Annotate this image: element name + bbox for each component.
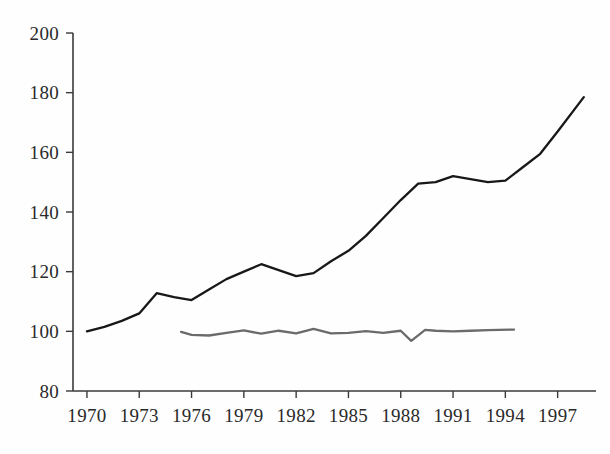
x-tick-label: 1982 <box>277 405 316 426</box>
x-tick-label: 1988 <box>381 405 420 426</box>
x-tick-label: 1973 <box>120 405 159 426</box>
y-axis: 80100120140160180200 <box>30 23 73 402</box>
x-tick-label: 1997 <box>538 405 577 426</box>
x-axis-tick-labels: 1970197319761979198219851988199119941997 <box>67 405 577 426</box>
chart-canvas: 80100120140160180200 1970197319761979198… <box>0 0 610 454</box>
x-axis-ticks <box>87 391 558 398</box>
data-series-group <box>87 97 584 341</box>
line-chart: 80100120140160180200 1970197319761979198… <box>0 0 610 454</box>
x-tick-label: 1979 <box>224 405 263 426</box>
y-tick-label: 100 <box>30 321 59 342</box>
x-tick-label: 1985 <box>329 405 368 426</box>
x-axis: 1970197319761979198219851988199119941997 <box>67 391 596 426</box>
y-tick-label: 140 <box>30 202 59 223</box>
y-tick-label: 180 <box>30 82 59 103</box>
x-tick-label: 1970 <box>67 405 106 426</box>
series-line-upper <box>87 97 584 331</box>
y-tick-label: 120 <box>30 261 59 282</box>
y-axis-tick-labels: 80100120140160180200 <box>30 23 59 402</box>
y-axis-ticks <box>66 33 73 391</box>
y-tick-label: 160 <box>30 142 59 163</box>
series-line-lower <box>181 329 514 341</box>
y-tick-label: 80 <box>39 381 59 402</box>
y-tick-label: 200 <box>30 23 59 44</box>
x-tick-label: 1991 <box>433 405 472 426</box>
x-tick-label: 1976 <box>172 405 211 426</box>
x-tick-label: 1994 <box>486 405 525 426</box>
